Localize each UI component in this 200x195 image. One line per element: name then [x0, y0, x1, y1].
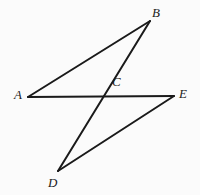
vertex-label-a: A — [14, 88, 22, 101]
vertex-label-e: E — [179, 87, 187, 100]
geometry-canvas — [0, 0, 200, 195]
segment-DE — [58, 96, 174, 171]
vertex-label-b: B — [152, 6, 160, 19]
segment-AB — [28, 21, 150, 97]
geometry-figure: A B C D E — [0, 0, 200, 195]
vertex-label-c: C — [112, 75, 121, 88]
vertex-label-d: D — [48, 176, 57, 189]
segment-AE — [28, 96, 174, 97]
